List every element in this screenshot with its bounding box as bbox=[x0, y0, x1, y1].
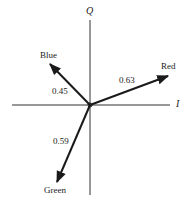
blue-vector-label: Blue bbox=[40, 51, 57, 60]
red-magnitude-label: 0.63 bbox=[119, 76, 135, 85]
red-vector-label: Red bbox=[161, 62, 176, 71]
diagram-canvas bbox=[0, 0, 192, 208]
i-axis-label: I bbox=[176, 99, 179, 109]
blue-magnitude-label: 0.45 bbox=[52, 87, 68, 96]
green-magnitude-label: 0.59 bbox=[53, 137, 69, 146]
blue-vector-arrow bbox=[50, 64, 90, 105]
green-vector-label: Green bbox=[44, 186, 66, 195]
q-axis-label: Q bbox=[86, 6, 93, 16]
